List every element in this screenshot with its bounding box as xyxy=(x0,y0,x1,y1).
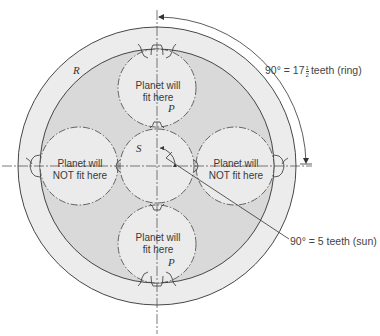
caption-line: Planet will xyxy=(47,158,113,170)
caption-line: fit here xyxy=(128,244,188,256)
ring-angle-arrow-start xyxy=(158,14,164,20)
fraction-denominator: 2 xyxy=(306,72,309,78)
planet-top-caption: Planet will fit here xyxy=(128,80,188,104)
sun-angle-annotation: 90° = 5 teeth (sun) xyxy=(290,235,377,247)
fraction-numerator: 1 xyxy=(306,65,309,72)
ring-angle-arrow-end xyxy=(303,158,309,164)
planet-left-caption: Planet will NOT fit here xyxy=(47,158,113,182)
caption-line: NOT fit here xyxy=(203,170,269,182)
ring-angle-prefix: 90° = 17 xyxy=(265,64,305,76)
ring-angle-annotation: 90° = 1712teeth (ring) xyxy=(265,64,362,78)
planet-right-caption: Planet will NOT fit here xyxy=(203,158,269,182)
caption-line: Planet will xyxy=(203,158,269,170)
ring-angle-suffix: teeth (ring) xyxy=(311,64,362,76)
caption-line: Planet will xyxy=(128,232,188,244)
ring-label: R xyxy=(73,64,80,76)
planet-bottom-label: P xyxy=(168,256,175,268)
sun-label: S xyxy=(136,142,142,154)
caption-line: Planet will xyxy=(128,80,188,92)
planet-bottom-caption: Planet will fit here xyxy=(128,232,188,256)
fraction-half: 12 xyxy=(306,65,309,78)
caption-line: NOT fit here xyxy=(47,170,113,182)
caption-line: fit here xyxy=(128,92,188,104)
